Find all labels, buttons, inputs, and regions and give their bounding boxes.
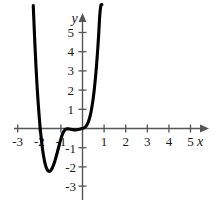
x-tick-label-neg3: -3 (12, 134, 23, 149)
y-tick-label-4: 4 (68, 44, 75, 59)
y-axis-arrow-icon (79, 13, 87, 22)
x-tick-label-3: 3 (144, 134, 151, 149)
x-tick-label-4: 4 (166, 134, 173, 149)
y-tick-label-2: 2 (68, 83, 75, 98)
y-tick-label-3: 3 (68, 63, 75, 78)
x-axis-label: x (196, 134, 204, 149)
y-tick-label-neg1: -1 (65, 141, 76, 156)
x-tick-label-5: 5 (187, 134, 194, 149)
y-tick-label-neg3: -3 (65, 179, 76, 194)
y-tick-label-5: 5 (68, 25, 75, 40)
coordinate-plot: -3 -2 -1 1 2 3 4 5 5 4 3 2 1 -1 -2 -3 x … (0, 0, 217, 211)
x-axis-arrow-icon (200, 125, 209, 133)
y-tick-label-neg2: -2 (65, 160, 76, 175)
graph-figure: -3 -2 -1 1 2 3 4 5 5 4 3 2 1 -1 -2 -3 x … (0, 0, 217, 211)
x-tick-label-2: 2 (122, 134, 129, 149)
x-tick-label-1: 1 (101, 134, 108, 149)
y-axis-label: y (69, 11, 78, 26)
y-tick-label-1: 1 (68, 102, 75, 117)
